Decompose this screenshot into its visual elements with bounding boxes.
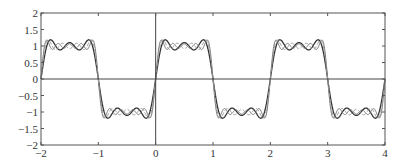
x-tick-label: 4	[382, 147, 388, 159]
y-tick-label: −1.5	[18, 123, 38, 135]
y-tick-label: −0.5	[18, 90, 38, 102]
fourier-series-chart: −2−101234 21.510.50−0.5−1−1.5−2	[0, 0, 404, 168]
x-axis-tick-labels: −2−101234	[35, 147, 388, 159]
x-tick-label: 2	[268, 147, 274, 159]
y-tick-label: −1	[26, 106, 38, 118]
y-tick-label: 1	[33, 40, 39, 52]
y-tick-label: 1.5	[24, 24, 38, 36]
x-tick-label: −1	[92, 147, 104, 159]
y-tick-label: 0	[33, 73, 39, 85]
y-tick-label: 2	[33, 7, 39, 19]
x-tick-label: 1	[210, 147, 216, 159]
y-axis-tick-labels: 21.510.50−0.5−1−1.5−2	[18, 7, 38, 151]
y-tick-label: −2	[26, 139, 38, 151]
y-tick-label: 0.5	[24, 57, 38, 69]
x-tick-label: 0	[153, 147, 159, 159]
x-tick-label: 3	[325, 147, 331, 159]
